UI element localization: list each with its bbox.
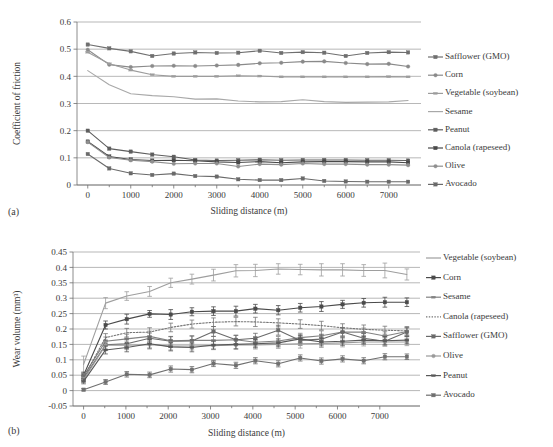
data-point-marker: [129, 50, 132, 53]
series-line: [88, 154, 408, 182]
data-point-marker: [320, 305, 323, 308]
x-axis-tick-label: 7000: [380, 190, 399, 200]
data-point-marker: [169, 313, 172, 316]
legend-item-label: Canola (rapeseed): [443, 311, 508, 321]
legend-item[interactable]: Vegetable (soybean): [426, 252, 516, 262]
x-axis-ticks-group: 01000200030004000500060007000: [81, 406, 389, 421]
y-axis-tick-label: 0: [63, 386, 68, 396]
data-series: [81, 325, 409, 381]
data-point-marker: [434, 183, 437, 186]
legend-item[interactable]: Sesame: [426, 291, 471, 301]
x-axis-tick-label: 1000: [122, 190, 141, 200]
data-point-marker: [82, 380, 86, 382]
legend-item[interactable]: Vegetable (soybean): [428, 87, 518, 97]
data-point-marker: [86, 51, 90, 53]
x-axis-tick-label: 1000: [117, 411, 136, 421]
legend-item[interactable]: Canola (rapeseed): [428, 142, 510, 152]
y-axis-title: Coefficient of friction: [12, 62, 22, 145]
y-axis-tick-label: 0.1: [56, 355, 67, 365]
x-axis-ticks-group: 01000200030004000500060007000: [86, 185, 399, 200]
data-point-marker: [344, 162, 348, 166]
y-axis-ticks-group: -0.0500.050.10.150.20.250.30.350.40.45: [48, 247, 73, 411]
data-point-marker: [190, 310, 193, 313]
coefficient-of-friction-chart: 0100020003000400050006000700000.10.20.30…: [0, 0, 553, 228]
legend-item[interactable]: Safflower (GMO): [428, 51, 510, 61]
y-axis-tick-label: 0.3: [60, 99, 72, 109]
data-point-marker: [258, 49, 261, 52]
data-point-marker: [432, 335, 435, 338]
data-point-marker: [432, 276, 435, 279]
data-series: [86, 129, 410, 162]
data-series: [86, 48, 410, 69]
legend-item[interactable]: Olive: [428, 160, 465, 170]
data-point-marker: [406, 180, 409, 183]
data-point-marker: [322, 162, 326, 166]
data-point-marker: [301, 76, 305, 78]
data-point-marker: [129, 158, 133, 162]
x-axis-tick-label: 5000: [286, 411, 305, 421]
legend-item[interactable]: Avocado: [428, 178, 477, 188]
data-point-marker: [215, 75, 219, 77]
data-point-marker: [341, 357, 344, 360]
data-point-marker: [129, 65, 133, 69]
legend-item[interactable]: Sesame: [428, 106, 473, 116]
data-point-marker: [169, 346, 173, 348]
data-point-marker: [299, 306, 302, 309]
data-point-marker: [215, 51, 218, 54]
y-axis-tick-label: 0.35: [51, 278, 67, 288]
data-point-marker: [172, 75, 176, 77]
legend-item-label: Corn: [445, 69, 464, 79]
legend-item[interactable]: Corn: [426, 272, 462, 282]
data-point-marker: [212, 309, 215, 312]
data-point-marker: [280, 51, 283, 54]
data-point-marker: [301, 60, 305, 64]
data-point-marker: [301, 50, 304, 53]
data-point-marker: [107, 156, 111, 160]
data-series: [81, 317, 409, 380]
series-group: [81, 263, 409, 391]
data-point-marker: [299, 356, 302, 359]
x-axis-tick-label: 4000: [251, 190, 270, 200]
x-axis-tick-label: 5000: [294, 190, 313, 200]
data-point-marker: [129, 150, 132, 153]
x-axis-tick-label: 7000: [371, 411, 390, 421]
data-point-marker: [279, 163, 283, 167]
legend-item[interactable]: Peanut: [426, 370, 468, 380]
legend-item-label: Vegetable (soybean): [445, 87, 518, 97]
data-point-marker: [432, 375, 436, 377]
data-point-marker: [365, 62, 369, 66]
series-line: [88, 131, 408, 161]
x-axis-tick-label: 3000: [208, 190, 227, 200]
data-point-marker: [344, 61, 348, 65]
y-axis-tick-label: 0.25: [51, 309, 67, 319]
data-point-marker: [194, 51, 197, 54]
data-point-marker: [234, 364, 237, 367]
legend-item[interactable]: Peanut: [428, 124, 470, 134]
data-point-marker: [172, 172, 175, 175]
legend-item[interactable]: Avocado: [426, 389, 475, 399]
series-line: [84, 269, 407, 364]
data-point-marker: [108, 147, 111, 150]
y-axis-tick-label: 0.6: [60, 17, 72, 27]
x-axis-tick-label: 6000: [337, 190, 356, 200]
data-point-marker: [362, 301, 365, 304]
data-point-marker: [406, 51, 409, 54]
y-axis-tick-label: 0.15: [51, 340, 67, 350]
legend-item[interactable]: Canola (rapeseed): [426, 311, 508, 321]
data-point-marker: [215, 175, 218, 178]
data-point-marker: [405, 330, 408, 333]
legend-item[interactable]: Olive: [426, 350, 463, 360]
data-point-marker: [434, 128, 437, 131]
data-point-marker: [215, 64, 219, 68]
legend-item[interactable]: Safflower (GMO): [426, 330, 508, 340]
data-series: [81, 328, 409, 379]
data-point-marker: [320, 359, 323, 362]
data-point-marker: [387, 62, 391, 66]
legend-item-label: Peanut: [445, 124, 470, 134]
x-axis-tick-label: 3000: [202, 411, 221, 421]
data-point-marker: [254, 359, 257, 362]
data-point-marker: [365, 163, 369, 167]
data-point-marker: [406, 163, 410, 167]
legend-item[interactable]: Corn: [428, 69, 464, 79]
data-point-marker: [406, 76, 410, 78]
